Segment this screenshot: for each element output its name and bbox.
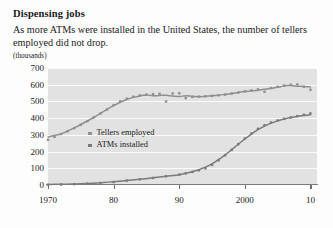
- data-point: [217, 94, 219, 96]
- data-point: [276, 86, 278, 88]
- data-point: [60, 133, 62, 135]
- data-point: [224, 154, 226, 156]
- legend-label-atms: ATMs installed: [97, 141, 148, 149]
- data-point: [250, 89, 252, 91]
- data-point: [178, 173, 180, 175]
- x-tick-label: 1970: [39, 196, 57, 205]
- data-point: [231, 92, 233, 94]
- data-point: [257, 128, 259, 130]
- series-atms: [47, 112, 312, 186]
- data-point: [296, 115, 298, 117]
- chart-legend: Tellers employed ATMs installed: [88, 128, 154, 152]
- data-point: [152, 177, 154, 179]
- data-point: [158, 93, 160, 95]
- data-point: [99, 112, 101, 114]
- data-point: [191, 171, 193, 173]
- series-tellers: [47, 83, 312, 141]
- data-point: [263, 91, 265, 93]
- data-point: [198, 169, 200, 171]
- data-point: [73, 183, 75, 185]
- data-point: [257, 88, 259, 90]
- data-point: [132, 96, 134, 98]
- data-point: [270, 87, 272, 89]
- data-point: [237, 143, 239, 145]
- data-point: [119, 100, 121, 102]
- data-point: [244, 137, 246, 139]
- data-point: [145, 93, 147, 95]
- data-point: [139, 178, 141, 180]
- x-tick-mark: [310, 185, 311, 189]
- data-point: [283, 84, 285, 86]
- x-tick-label: 80: [109, 196, 118, 205]
- data-point: [178, 92, 180, 94]
- data-point: [73, 127, 75, 129]
- x-tick-label: 10: [306, 196, 315, 205]
- data-point: [171, 92, 173, 94]
- legend-marker-atms-icon: [88, 144, 92, 148]
- data-point: [106, 108, 108, 110]
- data-point: [53, 136, 55, 138]
- data-point: [80, 124, 82, 126]
- data-point: [204, 95, 206, 97]
- x-tick-mark: [114, 185, 115, 189]
- data-point: [165, 175, 167, 177]
- legend-item-atms: ATMs installed: [88, 140, 154, 151]
- data-point: [270, 121, 272, 123]
- data-point: [86, 182, 88, 184]
- data-point: [66, 130, 68, 132]
- data-point: [191, 96, 193, 98]
- data-point: [93, 116, 95, 118]
- chart-figure: Dispensing jobs As more ATMs were instal…: [0, 0, 333, 228]
- data-point: [290, 84, 292, 86]
- data-series-layer: [0, 0, 333, 228]
- data-point: [303, 114, 305, 116]
- data-point: [112, 104, 114, 106]
- data-point: [217, 159, 219, 161]
- data-point: [185, 97, 187, 99]
- data-point: [303, 86, 305, 88]
- data-point: [244, 90, 246, 92]
- data-point: [126, 179, 128, 181]
- legend-item-tellers: Tellers employed: [88, 128, 154, 139]
- legend-label-tellers: Tellers employed: [97, 129, 155, 137]
- x-tick-mark: [48, 185, 49, 189]
- data-point: [47, 139, 49, 141]
- data-point: [139, 94, 141, 96]
- data-point: [237, 91, 239, 93]
- data-point: [250, 132, 252, 134]
- data-point: [263, 124, 265, 126]
- x-tick-label: 90: [175, 196, 184, 205]
- data-point: [211, 95, 213, 97]
- data-point: [224, 93, 226, 95]
- data-point: [276, 119, 278, 121]
- data-point: [60, 183, 62, 185]
- data-point: [290, 116, 292, 118]
- data-point: [99, 182, 101, 184]
- data-point: [283, 118, 285, 120]
- data-point: [309, 89, 311, 91]
- data-point: [185, 172, 187, 174]
- x-tick-label: 2000: [236, 196, 254, 205]
- data-point: [204, 167, 206, 169]
- data-point: [126, 98, 128, 100]
- data-point: [309, 112, 311, 114]
- data-point: [296, 83, 298, 85]
- data-point: [152, 93, 154, 95]
- x-tick-mark: [245, 185, 246, 189]
- data-point: [165, 100, 167, 102]
- data-point: [211, 164, 213, 166]
- data-point: [198, 95, 200, 97]
- data-point: [86, 120, 88, 122]
- data-point: [231, 149, 233, 151]
- x-tick-mark: [179, 185, 180, 189]
- legend-marker-tellers-icon: [88, 132, 92, 136]
- data-point: [112, 181, 114, 183]
